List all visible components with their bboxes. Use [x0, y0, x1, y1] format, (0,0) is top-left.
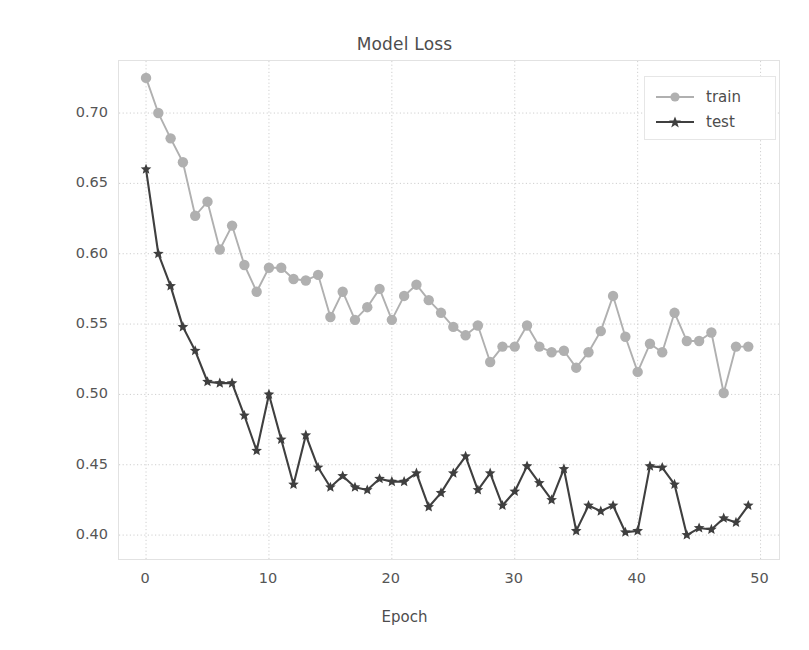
y-tick-label: 0.55 [56, 315, 108, 331]
x-tick-label: 30 [494, 570, 534, 586]
x-tick-label: 20 [371, 570, 411, 586]
legend-item-train[interactable]: train [645, 84, 775, 109]
legend: train test [644, 76, 776, 140]
y-tick-label: 0.45 [56, 456, 108, 472]
y-tick-label: 0.60 [56, 245, 108, 261]
y-tick-label: 0.50 [56, 385, 108, 401]
legend-label-test: test [696, 113, 735, 131]
y-tick-label: 0.65 [56, 174, 108, 190]
x-tick-label: 0 [125, 570, 165, 586]
x-tick-label: 40 [617, 570, 657, 586]
y-tick-label: 0.40 [56, 526, 108, 542]
legend-swatch-test [654, 113, 696, 131]
figure-canvas: Model Loss 0.400.450.500.550.600.650.70 … [0, 0, 809, 650]
x-tick-label: 10 [248, 570, 288, 586]
y-axis-label: Loss [0, 262, 2, 295]
chart-title: Model Loss [0, 34, 809, 54]
x-tick-label: 50 [740, 570, 780, 586]
x-axis-label: Epoch [0, 608, 809, 626]
legend-label-train: train [696, 88, 741, 106]
legend-item-test[interactable]: test [645, 109, 775, 134]
legend-swatch-train [654, 88, 696, 106]
y-tick-label: 0.70 [56, 104, 108, 120]
series-lines [141, 73, 754, 540]
